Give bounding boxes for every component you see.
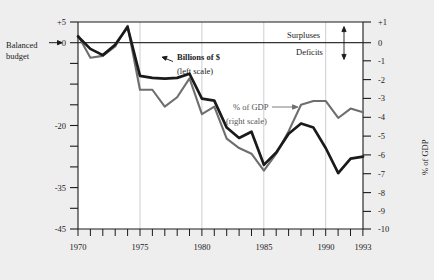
right-axis-ticks xyxy=(363,22,371,229)
right-tick-label-m6: -6 xyxy=(378,151,404,160)
left-tick-label-35: -35 xyxy=(40,184,66,193)
left-tick-label-5: +5 xyxy=(40,18,66,27)
balanced-budget-line1: Balanced xyxy=(6,40,38,51)
right-tick-label-m7: -7 xyxy=(378,170,404,179)
x-tick-label-1975: 1975 xyxy=(120,243,160,252)
gdp-annotation-line2: (right scale) xyxy=(226,116,267,126)
right-axis-title: % of GDP xyxy=(420,140,430,175)
right-tick-label-m8: -8 xyxy=(378,189,404,198)
billions-annotation-line1: Billions of $ xyxy=(177,52,220,62)
billions-label-leader xyxy=(162,56,173,61)
x-tick-label-1985: 1985 xyxy=(244,243,284,252)
x-axis-ticks xyxy=(78,229,363,236)
left-tick-label-0: 0 xyxy=(40,39,66,48)
chart-container: +5 0 -20 -35 -45 +1 0 -1 -2 -3 -4 -5 -6 … xyxy=(0,0,434,280)
right-tick-label-m1: -1 xyxy=(378,57,404,66)
gdp-annotation-line1: % of GDP xyxy=(233,102,268,112)
balanced-budget-line2: budget xyxy=(6,51,38,62)
left-axis-ticks xyxy=(70,22,78,229)
x-tick-label-1970: 1970 xyxy=(58,243,98,252)
right-tick-label-m3: -3 xyxy=(378,94,404,103)
x-tick-label-1980: 1980 xyxy=(182,243,222,252)
right-tick-label-m9: -9 xyxy=(378,207,404,216)
gdp-label-leader xyxy=(272,105,298,109)
right-tick-label-m10: -10 xyxy=(378,225,404,234)
right-tick-label-m2: -2 xyxy=(378,76,404,85)
surpluses-annotation: Surpluses xyxy=(287,30,320,40)
x-tick-label-1990: 1990 xyxy=(306,243,346,252)
right-tick-label-m5: -5 xyxy=(378,132,404,141)
billions-annotation-line2: (left scale) xyxy=(177,66,213,76)
left-tick-label-45: -45 xyxy=(40,225,66,234)
deficits-annotation: Deficits xyxy=(296,47,323,57)
right-tick-label-1: +1 xyxy=(378,18,404,27)
left-tick-label-20: -20 xyxy=(40,122,66,131)
x-tick-label-1993: 1993 xyxy=(343,243,383,252)
balanced-budget-annotation: Balanced budget xyxy=(6,40,38,62)
right-tick-label-m4: -4 xyxy=(378,113,404,122)
right-tick-label-0: 0 xyxy=(378,39,404,48)
